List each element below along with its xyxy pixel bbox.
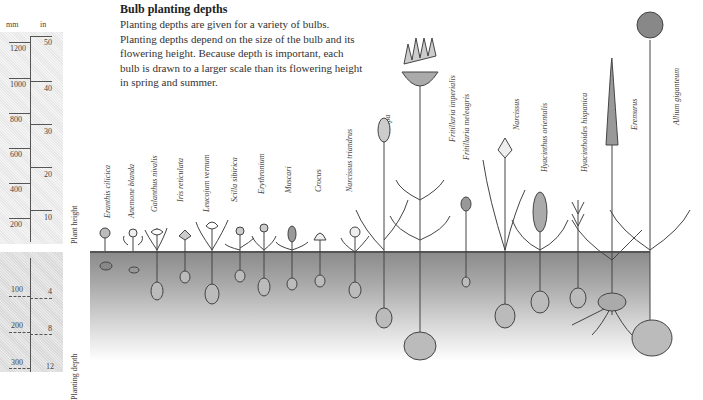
hyacinthoides-plant — [570, 200, 586, 308]
anemone-plant — [124, 229, 143, 273]
fritillaria-imperialis-plant — [390, 38, 450, 360]
leucojum-plant — [196, 220, 228, 304]
tulipa-plant — [356, 118, 408, 328]
hyacinthus-plant — [512, 192, 568, 313]
galanthus-plant — [145, 228, 167, 300]
fritillaria-meleagris-plant — [461, 197, 471, 287]
erythronium-plant — [252, 224, 276, 296]
iris-plant — [179, 230, 191, 283]
muscari-plant — [276, 226, 308, 290]
scilla-plant — [225, 227, 254, 282]
eranthis-plant — [100, 228, 112, 270]
crocus-plant — [314, 233, 326, 287]
narcissus-triandrus-plant — [341, 227, 369, 298]
